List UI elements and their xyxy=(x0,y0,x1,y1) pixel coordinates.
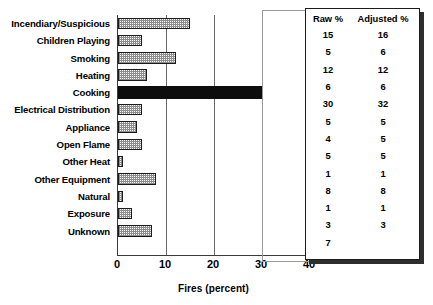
table-row: 3 3 xyxy=(306,216,419,233)
bar-heating xyxy=(118,69,147,80)
bar-row xyxy=(118,67,310,84)
bar-natural xyxy=(118,191,123,202)
cell-adjusted: 8 xyxy=(350,185,416,196)
table-row: 1 1 xyxy=(306,164,419,181)
plot-area xyxy=(117,15,309,255)
x-tick-label: 10 xyxy=(159,258,171,270)
cell-raw: 7 xyxy=(306,237,350,248)
cell-adjusted: 5 xyxy=(350,150,416,161)
cell-raw: 15 xyxy=(306,29,350,40)
table-row: 12 12 xyxy=(306,61,419,78)
table-row: 8 8 xyxy=(306,182,419,199)
category-label: Electrical Distribution xyxy=(0,101,114,118)
table-header-raw: Raw % xyxy=(306,13,350,24)
bar-row xyxy=(118,136,310,153)
table-row: 5 5 xyxy=(306,112,419,129)
cell-adjusted: 1 xyxy=(350,202,416,213)
table-header-adjusted: Adjusted % xyxy=(350,13,416,24)
x-axis-line xyxy=(117,255,310,256)
cell-raw: 6 xyxy=(306,81,350,92)
x-axis-title: Fires (percent) xyxy=(117,283,310,294)
data-table: Raw % Adjusted % 15 16 5 6 12 12 6 6 30 … xyxy=(305,8,420,260)
category-label-column: Incendiary/Suspicious Children Playing S… xyxy=(0,15,114,240)
bar-row xyxy=(118,84,310,101)
cell-adjusted: 32 xyxy=(350,98,416,109)
table-row: 5 5 xyxy=(306,147,419,164)
cell-raw: 12 xyxy=(306,64,350,75)
x-tick-label: 20 xyxy=(207,258,219,270)
cell-adjusted: 5 xyxy=(350,133,416,144)
category-label: Smoking xyxy=(0,50,114,67)
cell-adjusted: 6 xyxy=(350,46,416,57)
bar-row xyxy=(118,50,310,67)
bar-appliance xyxy=(118,121,137,132)
bar-children-playing xyxy=(118,35,142,46)
table-row: 6 6 xyxy=(306,78,419,95)
table-row: 15 16 xyxy=(306,26,419,43)
bar-row xyxy=(118,188,310,205)
table-row: 5 6 xyxy=(306,43,419,60)
category-label: Unknown xyxy=(0,223,114,240)
cell-raw: 5 xyxy=(306,150,350,161)
cell-adjusted: 16 xyxy=(350,29,416,40)
x-tick-label: 30 xyxy=(255,258,267,270)
bar-row xyxy=(118,223,310,240)
cell-adjusted: 1 xyxy=(350,168,416,179)
table-row: 1 1 xyxy=(306,199,419,216)
category-label: Other Heat xyxy=(0,153,114,170)
table-row: 30 32 xyxy=(306,95,419,112)
bar-unknown xyxy=(118,225,152,236)
bar-row xyxy=(118,171,310,188)
cell-raw: 3 xyxy=(306,219,350,230)
x-axis-ticks: 0 10 20 30 40 xyxy=(117,258,310,274)
cell-raw: 1 xyxy=(306,202,350,213)
bar-row xyxy=(118,32,310,49)
bar-chart-figure: Incendiary/Suspicious Children Playing S… xyxy=(0,0,433,305)
bar-electrical-distribution xyxy=(118,104,142,115)
bar-row xyxy=(118,101,310,118)
category-label: Open Flame xyxy=(0,136,114,153)
category-label: Exposure xyxy=(0,205,114,222)
bar-other-heat xyxy=(118,156,123,167)
cell-raw: 5 xyxy=(306,46,350,57)
category-label: Heating xyxy=(0,67,114,84)
bar-smoking xyxy=(118,52,176,63)
table-row: 4 5 xyxy=(306,130,419,147)
category-label: Natural xyxy=(0,188,114,205)
cell-raw: 1 xyxy=(306,168,350,179)
cell-adjusted: 6 xyxy=(350,81,416,92)
category-label: Other Equipment xyxy=(0,171,114,188)
category-label: Children Playing xyxy=(0,32,114,49)
cell-adjusted: 12 xyxy=(350,64,416,75)
category-label: Cooking xyxy=(0,84,114,101)
bar-row xyxy=(118,119,310,136)
cell-raw: 30 xyxy=(306,98,350,109)
cell-adjusted: 5 xyxy=(350,116,416,127)
bar-other-equipment xyxy=(118,173,156,184)
bar-cooking xyxy=(118,86,262,99)
category-label: Appliance xyxy=(0,119,114,136)
bar-row xyxy=(118,153,310,170)
table-row: 7 xyxy=(306,234,419,251)
cell-raw: 4 xyxy=(306,133,350,144)
bar-exposure xyxy=(118,208,132,219)
table-header-row: Raw % Adjusted % xyxy=(306,9,419,26)
bars-layer xyxy=(118,15,310,255)
cell-raw: 8 xyxy=(306,185,350,196)
bar-row xyxy=(118,205,310,222)
category-label: Incendiary/Suspicious xyxy=(0,15,114,32)
x-tick-label: 0 xyxy=(114,258,120,270)
bar-open-flame xyxy=(118,139,142,150)
bar-row xyxy=(118,15,310,32)
cell-raw: 5 xyxy=(306,116,350,127)
bar-incendiary-suspicious xyxy=(118,18,190,29)
cell-adjusted: 3 xyxy=(350,219,416,230)
